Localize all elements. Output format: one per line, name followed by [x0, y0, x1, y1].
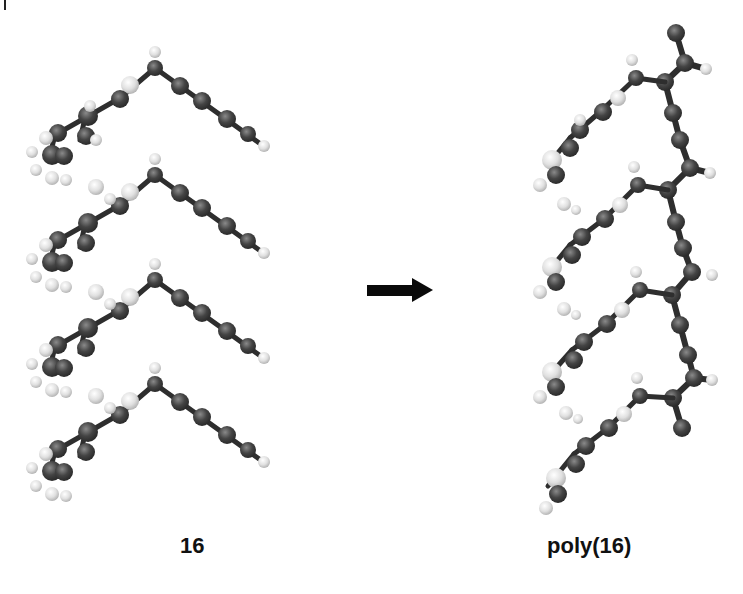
polymer-label: poly(16) — [547, 533, 631, 559]
monomer-unit-1 — [26, 46, 270, 186]
polymer-chain — [533, 24, 718, 515]
pendant-group-1 — [533, 54, 665, 192]
monomer-unit-4 — [26, 362, 270, 502]
monomer-unit-3 — [26, 258, 270, 398]
reaction-arrow-icon — [367, 278, 433, 302]
monomer-label: 16 — [180, 533, 204, 559]
monomer-stack — [26, 46, 270, 502]
monomer-unit-2 — [26, 153, 270, 293]
reaction-diagram — [0, 0, 743, 594]
